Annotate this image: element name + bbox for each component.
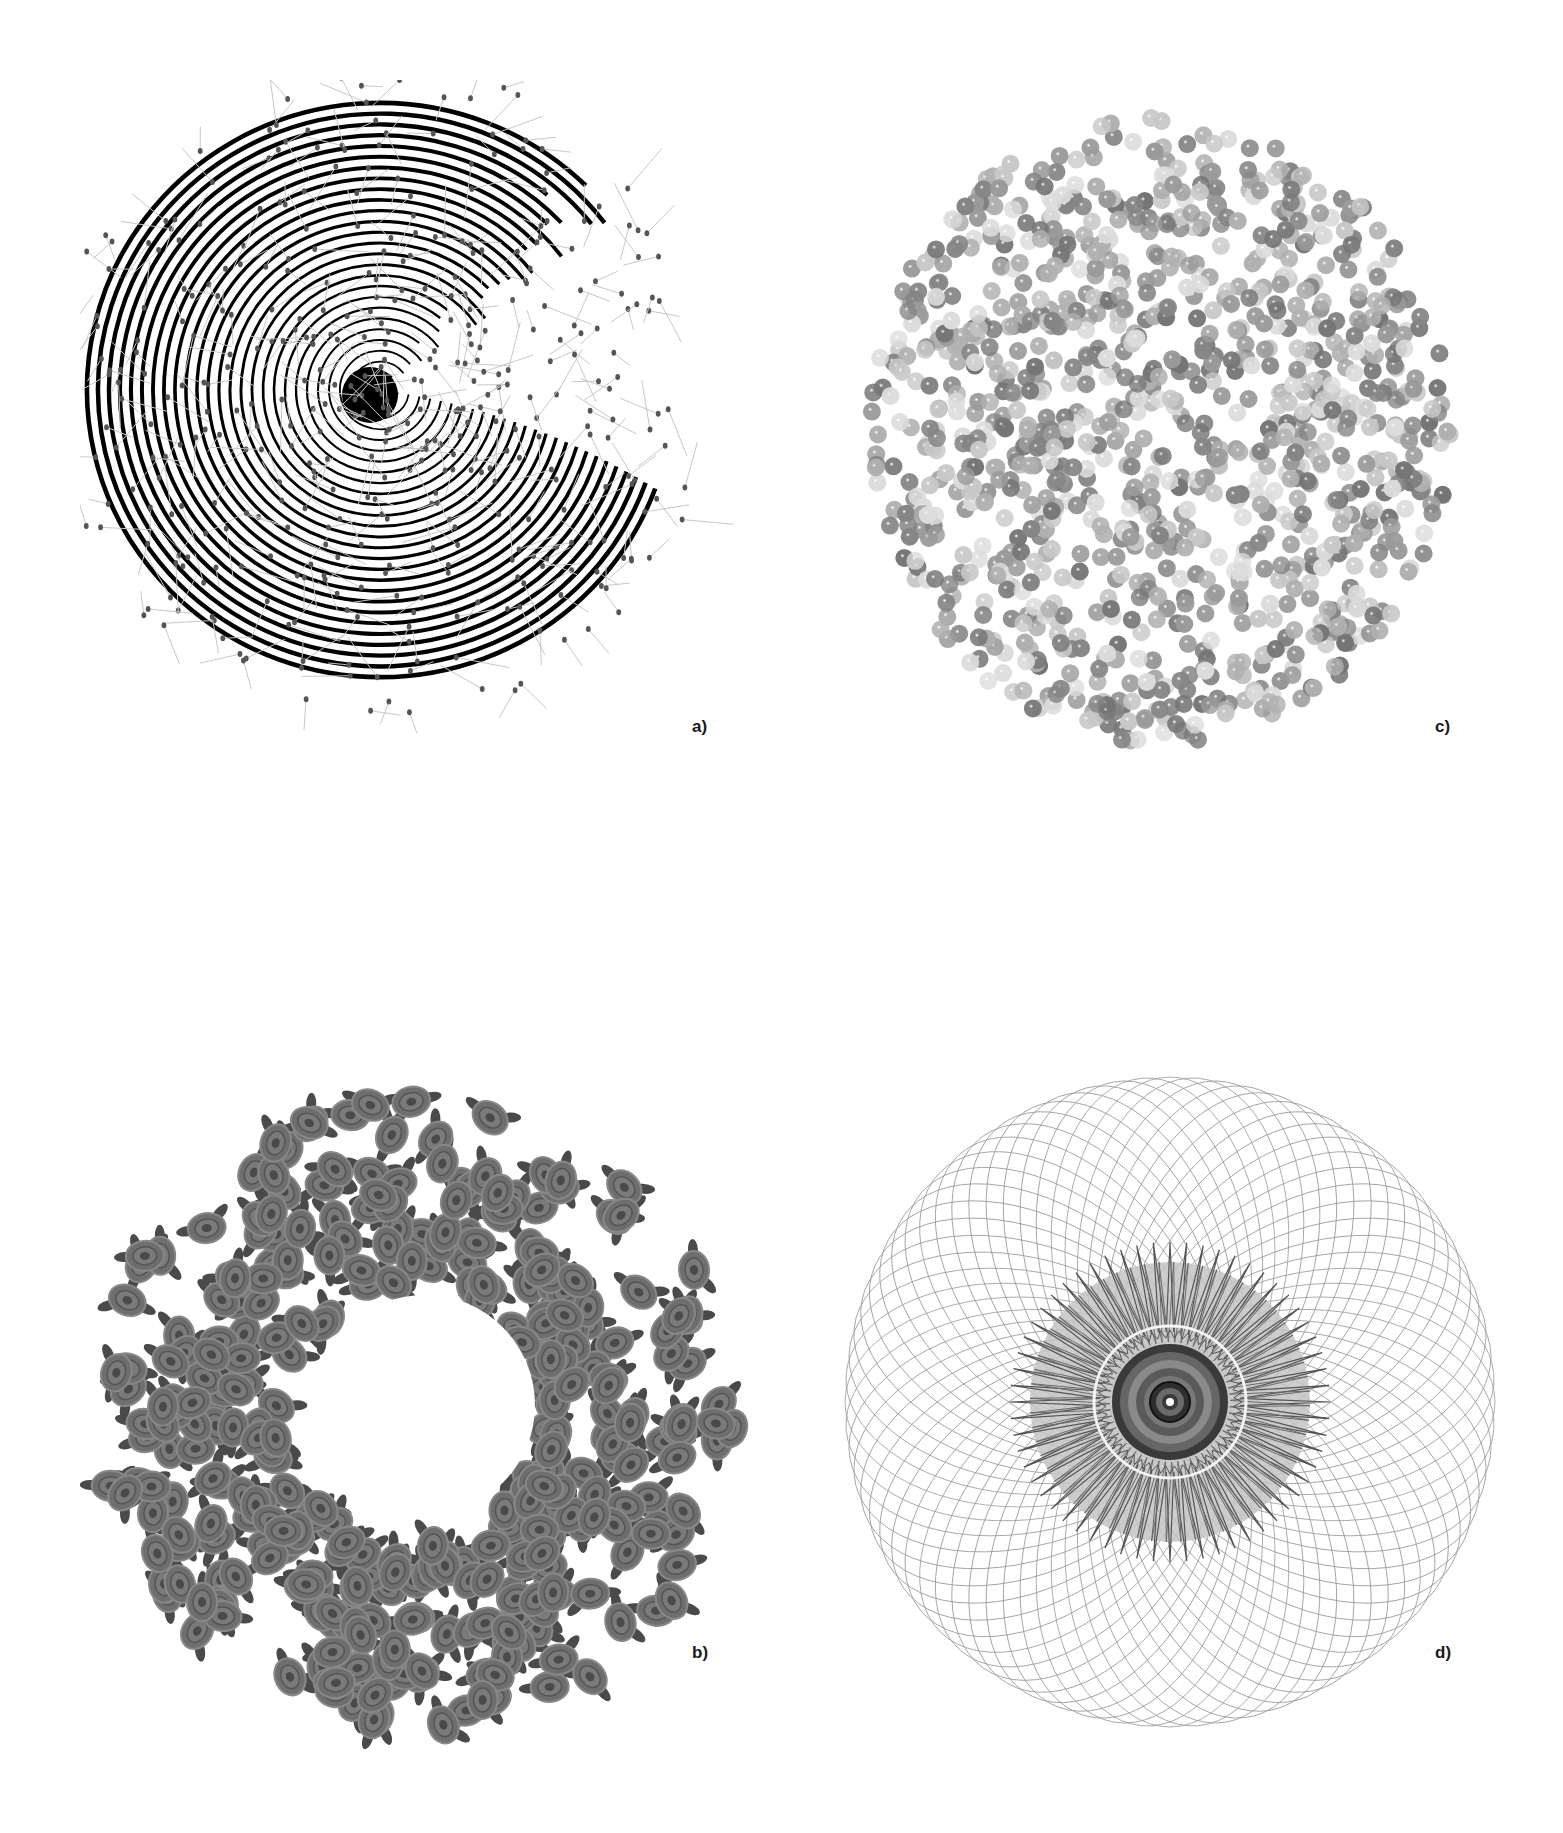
- panel-label-c: c): [1435, 717, 1450, 737]
- sphere-cloud-graphic: [800, 100, 1520, 900]
- panel-label-d: d): [1435, 1643, 1451, 1663]
- panel-a-spiral-particles: [80, 80, 800, 800]
- rose-wreath-graphic: [70, 1050, 790, 1780]
- panel-b-rose-wreath: [70, 1050, 790, 1780]
- spirograph-graphic: [830, 1050, 1510, 1750]
- panel-label-b: b): [692, 1643, 708, 1663]
- panel-label-a: a): [692, 717, 707, 737]
- panel-c-sphere-cloud: [800, 100, 1520, 900]
- spiral-arcs-graphic: [80, 80, 800, 800]
- panel-d-spirograph: [830, 1050, 1510, 1750]
